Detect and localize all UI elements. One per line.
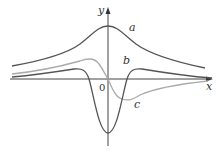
origin-label: 0 [99,82,105,93]
curve-b [12,69,212,133]
curve-a-label: a [129,21,136,34]
y-axis-label: y [97,4,105,17]
chart-plot: y x 0 a b c [0,0,219,156]
axes [10,7,213,146]
curve-c-label: c [134,98,140,111]
y-axis-arrow-icon [106,7,111,14]
x-axis-label: x [206,80,213,93]
curve-b-label: b [123,54,130,67]
